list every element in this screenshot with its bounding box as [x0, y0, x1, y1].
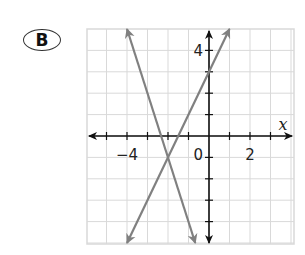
axes [89, 31, 292, 243]
coordinate-plane: −4024x [0, 0, 305, 255]
tick-labels: −4024x [116, 42, 288, 164]
y-tick-label: 4 [193, 42, 203, 60]
line-2 [161, 136, 195, 243]
x-tick-label: −4 [116, 146, 138, 164]
line-2 [127, 29, 161, 136]
x-tick-label: 2 [245, 146, 255, 164]
line-1 [178, 29, 229, 136]
x-tick-label: 0 [193, 146, 203, 164]
x-axis-label: x [278, 115, 287, 134]
